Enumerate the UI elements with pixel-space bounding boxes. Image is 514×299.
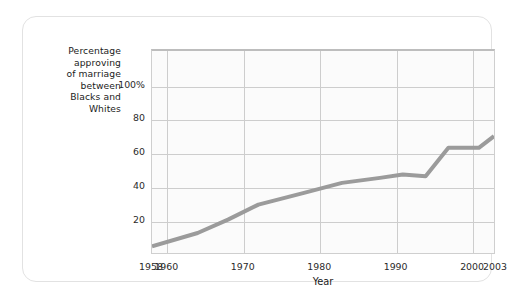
y-axis-title-line: of marriage: [33, 68, 121, 80]
y-axis-title-line: approving: [33, 57, 121, 69]
x-axis-title: Year: [151, 276, 495, 287]
y-axis-tick-label: 60: [101, 147, 145, 157]
x-axis-tick-label: 1970: [231, 262, 255, 272]
x-axis-tick-label: 1990: [384, 262, 408, 272]
plot-inner: [152, 51, 494, 253]
figure-card: Percentage approving of marriage between…: [22, 16, 492, 282]
y-axis-title-line: Blacks and: [33, 91, 121, 103]
y-axis-tick-label: 100%: [101, 80, 145, 90]
plot-area: [151, 49, 495, 254]
y-axis-title-line: Percentage: [33, 45, 121, 57]
x-axis-tick-label: 1980: [307, 262, 331, 272]
x-axis-tick-label: 1960: [154, 262, 178, 272]
x-axis-tick-label: 2000: [460, 262, 484, 272]
data-line: [152, 51, 494, 253]
y-axis-tick-label: 80: [101, 113, 145, 123]
y-axis-tick-label: 20: [101, 215, 145, 225]
y-axis-tick-label: 40: [101, 181, 145, 191]
x-axis-tick-label: 2003: [483, 262, 507, 272]
